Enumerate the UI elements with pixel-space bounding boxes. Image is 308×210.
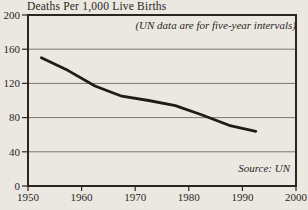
chart-title: Deaths Per 1,000 Live Births [27,0,166,13]
plot-border [28,15,296,186]
y-tick-label-80: 80 [9,111,21,123]
y-tick-label-40: 40 [9,146,21,158]
data-line-series [41,58,255,132]
x-tick-label-1990: 1990 [231,191,254,203]
x-tick-label-1970: 1970 [124,191,147,203]
chart-annotation: (UN data are for five-year intervals) [135,19,296,31]
x-tick-label-2000: 2000 [285,191,308,203]
y-tick-label-120: 120 [4,77,21,89]
x-tick-label-1960: 1960 [71,191,94,203]
chart-figure: 04080120160200195019601970198019902000 D… [0,0,308,210]
line-chart: 04080120160200195019601970198019902000 [0,0,308,210]
y-tick-label-200: 200 [4,9,21,21]
x-tick-label-1980: 1980 [178,191,201,203]
y-tick-label-0: 0 [15,180,21,192]
x-tick-label-1950: 1950 [17,191,40,203]
y-tick-label-160: 160 [4,43,21,55]
chart-source: Source: UN [238,162,290,174]
